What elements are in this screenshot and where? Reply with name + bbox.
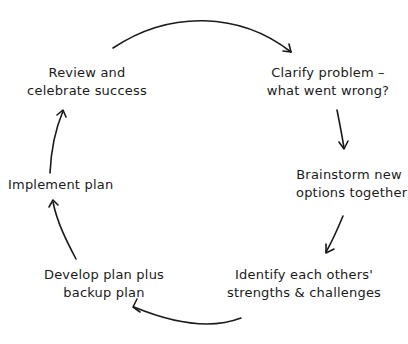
step-brainstorm-line-1: Brainstorm new	[296, 166, 402, 184]
step-review: Review and celebrate success	[18, 64, 156, 100]
step-clarify-line-1: Clarify problem –	[248, 64, 408, 82]
arrow-review-to-clarify	[113, 21, 291, 52]
step-review-line-1: Review and	[18, 64, 156, 82]
step-clarify-line-2: what went wrong?	[248, 82, 408, 100]
step-brainstorm-line-2: options together	[296, 184, 402, 202]
step-implement: Implement plan	[8, 176, 108, 194]
arrow-brainstorm-to-identify	[326, 216, 343, 253]
arrow-clarify-to-brainstorm	[337, 110, 348, 149]
step-review-line-2: celebrate success	[18, 82, 156, 100]
step-clarify: Clarify problem – what went wrong?	[248, 64, 408, 100]
step-identify-line-2: strengths & challenges	[224, 284, 384, 302]
arrow-develop-to-implement	[49, 200, 76, 259]
arrow-implement-to-review	[50, 110, 66, 173]
step-develop-line-2: backup plan	[34, 284, 174, 302]
step-develop: Develop plan plus backup plan	[34, 266, 174, 302]
arrow-identify-to-develop	[133, 299, 241, 324]
step-brainstorm: Brainstorm new options together	[296, 166, 402, 202]
step-identify: Identify each others' strengths & challe…	[224, 266, 384, 302]
step-identify-line-1: Identify each others'	[224, 266, 384, 284]
step-implement-line-1: Implement plan	[8, 176, 108, 194]
step-develop-line-1: Develop plan plus	[34, 266, 174, 284]
